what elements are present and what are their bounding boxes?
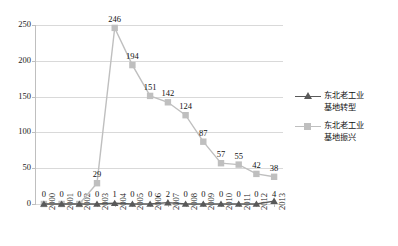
- data-point-square-2008: [182, 112, 188, 118]
- data-point-square-2003: [94, 180, 100, 186]
- data-point-square-2006: [147, 93, 153, 99]
- data-point-square-2011: [236, 161, 242, 167]
- line-chart: 0501001502002502000200120022003200420052…: [0, 0, 398, 246]
- data-point-square-2010: [218, 160, 224, 166]
- value-label-revival-2004: 246: [103, 15, 127, 24]
- legend-marker-shape: [304, 123, 311, 130]
- legend-label: 东北老工业基地转型: [324, 90, 364, 114]
- value-label-transform-2013: 4: [262, 190, 286, 199]
- legend-item-transform[interactable]: 东北老工业基地转型: [295, 90, 364, 114]
- data-point-square-2005: [129, 62, 135, 68]
- value-label-revival-2007: 142: [156, 89, 180, 98]
- value-label-revival-2008: 124: [174, 102, 198, 111]
- data-point-square-2013: [271, 174, 277, 180]
- legend-triangle-marker-icon: [295, 91, 321, 101]
- value-label-revival-2013: 38: [262, 164, 286, 173]
- data-point-square-2007: [165, 99, 171, 105]
- legend-marker-shape: [304, 92, 312, 99]
- legend-square-marker-icon: [295, 121, 321, 131]
- legend-label: 东北老工业基地振兴: [324, 120, 364, 144]
- value-label-revival-2009: 87: [191, 129, 215, 138]
- value-label-revival-2005: 194: [120, 52, 144, 61]
- legend-item-revival[interactable]: 东北老工业基地振兴: [295, 120, 364, 144]
- series-line-square: [44, 28, 274, 204]
- data-point-square-2012: [253, 171, 259, 177]
- data-point-square-2004: [112, 25, 118, 31]
- value-label-revival-2011: 55: [227, 152, 251, 161]
- value-label-revival-2003: 29: [85, 170, 109, 179]
- data-point-square-2009: [200, 139, 206, 145]
